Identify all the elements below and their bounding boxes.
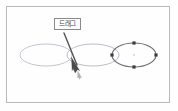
handle-right[interactable] xyxy=(154,53,157,56)
illustration-canvas xyxy=(0,0,178,111)
ellipse-center-dot xyxy=(133,54,134,55)
handle-left[interactable] xyxy=(110,53,113,56)
callout-label-text: 드래그 xyxy=(59,20,76,28)
figure-container: 드래그 xyxy=(0,0,178,111)
canvas-background xyxy=(0,0,178,111)
callout-label-box[interactable]: 드래그 xyxy=(54,18,81,30)
handle-top[interactable] xyxy=(132,41,135,44)
handle-bottom[interactable] xyxy=(132,65,135,68)
